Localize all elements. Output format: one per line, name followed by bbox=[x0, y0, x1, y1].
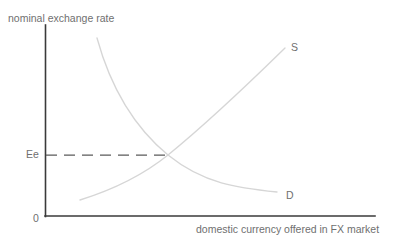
x-axis-title: domestic currency offered in FX market bbox=[196, 224, 379, 235]
demand-curve bbox=[97, 38, 277, 192]
equilibrium-rate-label: Ee bbox=[26, 149, 39, 160]
supply-curve-label: S bbox=[291, 42, 298, 53]
y-axis-title: nominal exchange rate bbox=[8, 13, 114, 24]
diagram-canvas bbox=[0, 0, 393, 242]
demand-curve-label: D bbox=[286, 190, 294, 201]
origin-label: 0 bbox=[33, 213, 39, 224]
fx-market-diagram: nominal exchange rate domestic currency … bbox=[0, 0, 393, 242]
supply-curve bbox=[80, 48, 285, 200]
